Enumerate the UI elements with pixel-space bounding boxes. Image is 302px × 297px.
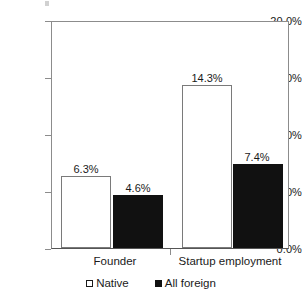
legend: Native All foreign	[0, 277, 302, 290]
legend-swatch-native-icon	[86, 280, 93, 287]
legend-item-all-foreign[interactable]: All foreign	[155, 277, 216, 290]
bar-value-label-startup-employment-native: 14.3%	[179, 72, 235, 84]
legend-item-native[interactable]: Native	[86, 277, 129, 290]
legend-label-native: Native	[96, 277, 129, 290]
bar-value-label-founder-native: 6.3%	[60, 163, 112, 175]
bar-value-label-founder-all-foreign: 4.6%	[112, 182, 164, 194]
top-edge-artifact	[45, 1, 49, 6]
x-category-label-founder: Founder	[60, 254, 170, 268]
bar-chart: 20.0% 15.0% 10.0% 5.0% 0.0% 6.3% 4.6% 14…	[0, 0, 302, 297]
legend-swatch-all-foreign-icon	[155, 280, 162, 287]
bar-startup-employment-native[interactable]	[182, 85, 232, 248]
bar-startup-employment-all-foreign[interactable]	[233, 164, 283, 248]
plot-area	[51, 21, 289, 249]
legend-label-all-foreign: All foreign	[165, 277, 216, 290]
y-tick-mark-0	[45, 249, 51, 250]
bar-founder-native[interactable]	[61, 176, 111, 248]
bar-value-label-startup-employment-all-foreign: 7.4%	[231, 151, 283, 163]
bar-founder-all-foreign[interactable]	[113, 195, 163, 248]
x-category-label-startup-employment: Startup employment	[171, 254, 289, 268]
